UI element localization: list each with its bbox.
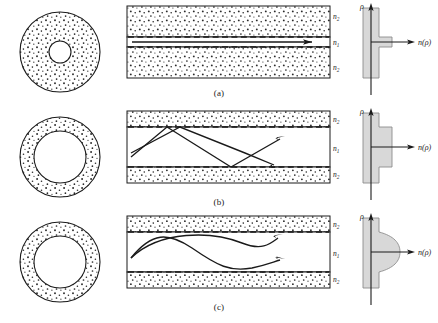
figure-row-b: n2 n1 n2 ρ n(ρ) (b) [0, 105, 438, 210]
label-n2-lower: n2 [333, 170, 340, 180]
caption-a: (a) [0, 88, 438, 98]
rho-axis-label: ρ [359, 107, 364, 116]
label-n2-upper: n2 [333, 12, 340, 22]
core-circle [34, 131, 86, 183]
label-n1-core: n1 [333, 249, 340, 259]
caption-b: (b) [0, 197, 438, 207]
figure-row-c: n2 n1 n2 ρ n(ρ) (c) [0, 210, 438, 315]
index-profile-c: ρ n(ρ) [348, 210, 438, 315]
side-view-b: n2 n1 n2 [120, 105, 348, 210]
n-axis-label: n(ρ) [418, 38, 432, 47]
label-n2-upper: n2 [333, 220, 340, 230]
figure-row-a: n2 n1 n2 ρ n(ρ) (a) [0, 0, 438, 105]
cross-section-b [8, 105, 120, 210]
n-axis-label: n(ρ) [418, 248, 432, 257]
n-axis-label: n(ρ) [418, 143, 432, 152]
label-n1-core: n1 [333, 144, 340, 154]
cladding-upper [127, 216, 330, 232]
core-circle [49, 41, 71, 63]
label-n2-lower: n2 [333, 275, 340, 285]
figure-optical-fiber-types: n2 n1 n2 ρ n(ρ) (a) [0, 0, 438, 323]
cladding-lower [127, 167, 330, 183]
rho-axis-label: ρ [359, 212, 364, 221]
caption-c: (c) [0, 302, 438, 312]
rho-axis-label: ρ [359, 2, 364, 11]
core-circle [34, 236, 86, 288]
index-profile-b: ρ n(ρ) [348, 105, 438, 210]
profile-shape-parabolic [363, 218, 400, 288]
profile-shape-step-narrow [363, 8, 392, 78]
cladding-upper [127, 6, 330, 37]
cross-section-c [8, 210, 120, 315]
label-n1-core: n1 [333, 38, 340, 48]
side-view-c: n2 n1 n2 [120, 210, 348, 315]
label-n2-upper: n2 [333, 115, 340, 125]
label-n2-lower: n2 [333, 63, 340, 73]
cladding-upper [127, 111, 330, 127]
cladding-lower [127, 47, 330, 78]
cladding-lower [127, 272, 330, 288]
profile-shape-step-wide [363, 113, 392, 183]
